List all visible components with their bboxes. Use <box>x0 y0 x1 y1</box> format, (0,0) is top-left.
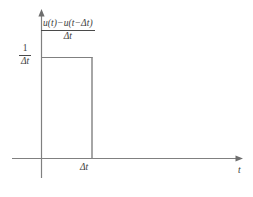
formula-numerator: u(t)−u(t−Δt) <box>41 19 95 31</box>
amplitude-fraction: 1 Δt <box>19 44 31 66</box>
amplitude-label: 1 Δt <box>19 44 31 66</box>
amplitude-numerator: 1 <box>19 44 31 56</box>
formula-denominator: Δt <box>41 31 95 42</box>
plot-canvas <box>0 0 253 197</box>
formula-fraction: u(t)−u(t−Δt) Δt <box>41 19 95 41</box>
x-axis-name-label: t <box>238 166 241 176</box>
amplitude-denominator: Δt <box>19 56 31 67</box>
x-tick-label-delta-t: Δt <box>80 163 88 173</box>
pulse-formula-label: u(t)−u(t−Δt) Δt <box>41 19 95 41</box>
y-axis-arrowhead <box>38 9 44 17</box>
x-axis-arrowhead <box>236 155 244 161</box>
figure-container: u(t)−u(t−Δt) Δt 1 Δt Δt t <box>0 0 253 197</box>
